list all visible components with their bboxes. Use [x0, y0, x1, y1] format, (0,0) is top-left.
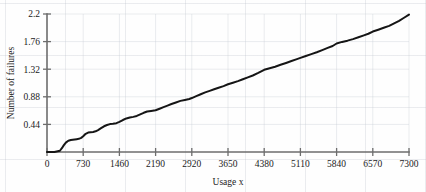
y-axis-title: Number of failures [6, 47, 16, 120]
x-axis-title: Usage x [213, 177, 244, 187]
x-axis-ticks: 0730146021902920365043805110584065707300 [45, 148, 419, 169]
y-tick-label: 1.76 [23, 37, 40, 47]
x-tick-label: 6570 [363, 159, 382, 169]
chart-plot-area: 0.440.881.321.762.2 07301460219029203650… [0, 0, 426, 192]
x-tick-label: 730 [76, 159, 91, 169]
y-tick-label: 2.2 [28, 9, 40, 19]
x-tick-label: 1460 [110, 159, 129, 169]
y-tick-label: 0.44 [23, 120, 40, 130]
x-tick-label: 2920 [182, 159, 201, 169]
x-tick-label: 3650 [219, 159, 238, 169]
x-tick-label: 7300 [400, 159, 419, 169]
y-tick-label: 1.32 [23, 65, 40, 75]
x-tick-label: 5840 [327, 159, 346, 169]
x-tick-label: 0 [45, 159, 50, 169]
chart-gridlines [47, 14, 409, 152]
y-tick-label: 0.88 [23, 92, 40, 102]
x-tick-label: 2190 [146, 159, 165, 169]
x-tick-label: 5110 [291, 159, 310, 169]
x-tick-label: 4380 [255, 159, 274, 169]
failure-count-chart: 0.440.881.321.762.2 07301460219029203650… [0, 0, 426, 192]
